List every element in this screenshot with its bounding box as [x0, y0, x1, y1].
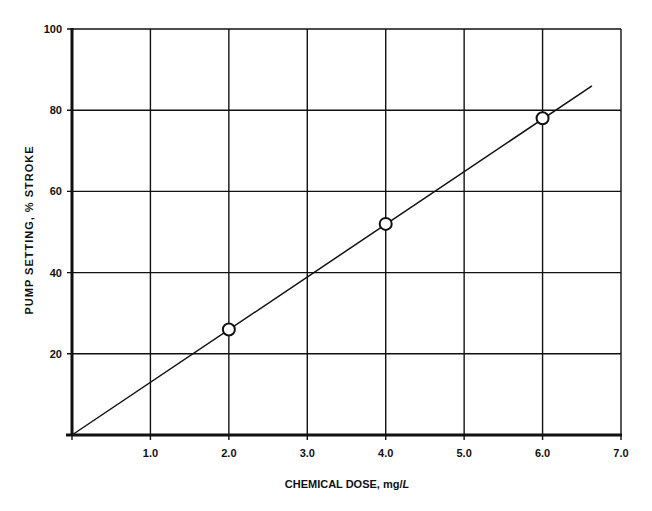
- x-tick-label: 7.0: [613, 447, 628, 459]
- pump-setting-chart: 1.02.03.04.05.06.07.0 20406080100 CHEMIC…: [0, 0, 652, 511]
- x-tick-label: 5.0: [456, 447, 471, 459]
- x-tick-label: 6.0: [535, 447, 550, 459]
- y-tick-label: 20: [50, 348, 62, 360]
- x-axis-title-main: CHEMICAL DOSE, mg/: [285, 478, 403, 490]
- data-point-marker: [537, 112, 549, 124]
- y-axis-title: PUMP SETTING, % STROKE: [23, 145, 35, 314]
- x-tick-label: 3.0: [300, 447, 315, 459]
- grid-lines: [67, 29, 621, 440]
- data-point-marker: [223, 323, 235, 335]
- x-tick-label: 2.0: [221, 447, 236, 459]
- y-tick-label: 100: [44, 23, 62, 35]
- y-axis-tick-labels: 20406080100: [44, 23, 62, 360]
- x-axis-title: CHEMICAL DOSE, mg/L: [285, 478, 410, 490]
- x-axis-title-unit: L: [403, 478, 410, 490]
- x-axis-tick-labels: 1.02.03.04.05.06.07.0: [143, 447, 629, 459]
- y-tick-label: 60: [50, 185, 62, 197]
- x-tick-label: 4.0: [378, 447, 393, 459]
- x-tick-label: 1.0: [143, 447, 158, 459]
- y-tick-label: 80: [50, 104, 62, 116]
- y-tick-label: 40: [50, 267, 62, 279]
- data-point-marker: [380, 218, 392, 230]
- axes: [66, 28, 622, 436]
